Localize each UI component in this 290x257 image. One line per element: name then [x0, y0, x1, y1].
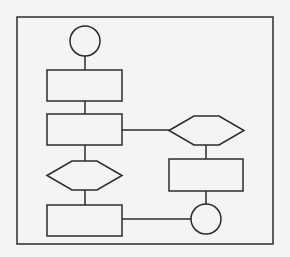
node-decision2 — [169, 116, 244, 145]
node-process4 — [169, 159, 243, 191]
node-start — [70, 26, 100, 56]
node-process3 — [47, 205, 122, 236]
node-process1 — [47, 70, 122, 101]
node-end — [191, 204, 221, 234]
node-decision1 — [47, 161, 122, 190]
node-process2 — [47, 114, 122, 145]
flowchart-diagram — [0, 0, 290, 257]
